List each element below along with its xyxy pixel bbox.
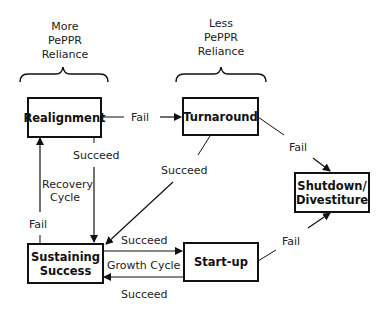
header-line: PePPR xyxy=(35,34,95,48)
node-sustaining-success: Sustaining Success xyxy=(27,243,104,284)
node-shutdown-divestiture: Shutdown/ Divestiture xyxy=(294,172,370,213)
edge-label-sustain-fail: Fail xyxy=(29,218,47,231)
header-line: More xyxy=(35,20,95,34)
edge-label-startup-fail: Fail xyxy=(282,235,300,248)
node-label: Success xyxy=(40,264,92,278)
node-label: Divestiture xyxy=(296,193,368,207)
edge-label-realign-succeed: Succeed xyxy=(73,149,120,162)
node-label: Realignment xyxy=(23,111,105,125)
growth-cycle-label: Growth Cycle xyxy=(107,259,180,272)
node-turnaround: Turnaround xyxy=(182,97,259,136)
right-brace xyxy=(176,67,266,82)
header-line: PePPR xyxy=(191,31,251,45)
node-label: Sustaining xyxy=(31,250,100,264)
edge-label-startup-succeed: Succeed xyxy=(121,288,168,301)
node-label: Shutdown/ xyxy=(297,179,366,193)
node-start-up: Start-up xyxy=(183,242,259,282)
edge-label-realign-fail: Fail xyxy=(131,111,149,124)
node-label: Turnaround xyxy=(183,110,258,124)
recovery-cycle-label: Recovery Cycle xyxy=(42,178,88,204)
cycle-line: Recovery xyxy=(42,178,88,191)
node-realignment: Realignment xyxy=(27,97,102,138)
edge-label-turn-succeed: Succeed xyxy=(161,164,208,177)
edge-label-sustain-succeed: Succeed xyxy=(121,234,168,247)
node-label: Start-up xyxy=(194,255,248,269)
header-line: Reliance xyxy=(191,45,251,59)
edge-label-turn-fail: Fail xyxy=(289,141,307,154)
header-line: Less xyxy=(191,17,251,31)
header-more-reliance: More PePPR Reliance xyxy=(35,20,95,62)
cycle-line: Cycle xyxy=(42,191,88,204)
header-less-reliance: Less PePPR Reliance xyxy=(191,17,251,59)
left-brace xyxy=(20,67,108,82)
header-line: Reliance xyxy=(35,48,95,62)
